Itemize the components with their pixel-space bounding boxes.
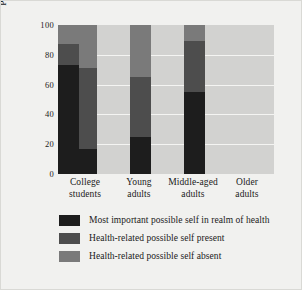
x-label-line-2: adults (166, 189, 220, 201)
y-axis-title: Percentage of sample (0, 0, 8, 29)
x-label-line-2: adults (220, 189, 274, 201)
bar-segment (76, 68, 97, 148)
bar-segment (184, 25, 205, 41)
legend-label-present: Health-related possible self present (89, 233, 225, 243)
legend-label-absent: Health-related possible self absent (89, 251, 221, 261)
bar-older-adults (58, 25, 79, 174)
x-label-line-1: Young (112, 177, 166, 189)
bar-segment (76, 149, 97, 174)
x-label-college-students: College students (58, 177, 112, 205)
legend-swatch-absent (59, 251, 80, 262)
y-tick-20: 20 (18, 139, 54, 149)
plot-area (58, 25, 274, 174)
x-label-young-adults: Young adults (112, 177, 166, 205)
bar-segment (184, 41, 205, 92)
x-label-line-2: adults (112, 189, 166, 201)
x-label-line-2: students (58, 189, 112, 201)
bar-middle-aged-adults (184, 25, 205, 174)
x-label-line-1: Older (220, 177, 274, 189)
bar-segment (76, 25, 97, 68)
bar-young-adults (130, 25, 151, 174)
bar-segment (130, 137, 151, 174)
legend-label-most-important: Most important possible self in realm of… (89, 215, 269, 225)
bar-college-students (76, 25, 97, 174)
x-label-line-1: Middle-aged (166, 177, 220, 189)
x-axis-category-labels: College students Young adults Middle-age… (58, 177, 274, 205)
y-tick-100: 100 (18, 20, 54, 30)
bar-segment (130, 77, 151, 137)
x-label-older-adults: Older adults (220, 177, 274, 205)
legend-swatch-present (59, 233, 80, 244)
chart-legend: Most important possible self in realm of… (59, 212, 295, 266)
stacked-bar-chart-figure: Percentage of sample 100 80 60 40 20 0 C… (0, 0, 302, 290)
y-tick-40: 40 (18, 109, 54, 119)
bar-segment (130, 25, 151, 77)
legend-item-most-important: Most important possible self in realm of… (59, 212, 295, 228)
x-label-middle-aged-adults: Middle-aged adults (166, 177, 220, 205)
y-axis-tick-labels: 100 80 60 40 20 0 (16, 25, 54, 174)
bar-segment (58, 25, 79, 44)
y-tick-0: 0 (18, 169, 54, 179)
legend-item-absent: Health-related possible self absent (59, 248, 295, 264)
legend-swatch-most-important (59, 215, 80, 226)
x-label-line-1: College (58, 177, 112, 189)
bar-segment (184, 92, 205, 174)
y-tick-80: 80 (18, 50, 54, 60)
bar-segment (58, 65, 79, 174)
legend-item-present: Health-related possible self present (59, 230, 295, 246)
bar-segment (58, 44, 79, 65)
y-tick-60: 60 (18, 80, 54, 90)
